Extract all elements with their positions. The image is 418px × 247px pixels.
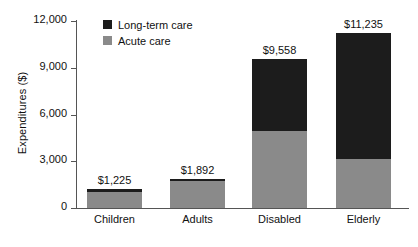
y-axis-title: Expenditures ($) xyxy=(16,33,28,193)
x-axis-label-adults: Adults xyxy=(153,213,243,225)
y-axis-tick: 12,000 xyxy=(0,21,76,22)
y-axis-tick-label: 0 xyxy=(61,200,67,212)
bar-segment-long-term-care xyxy=(252,59,307,131)
bar-segment-long-term-care xyxy=(336,33,391,159)
y-axis-tick-mark xyxy=(71,115,76,116)
y-axis-tick-mark xyxy=(71,208,76,209)
y-axis-tick: 6,000 xyxy=(0,115,76,116)
legend-item-acute-care: Acute care xyxy=(103,33,193,48)
legend-item-long-term-care: Long-term care xyxy=(103,17,193,32)
bar-adults xyxy=(170,179,225,208)
y-axis-tick-label: 12,000 xyxy=(33,13,67,25)
y-axis-tick-mark xyxy=(71,68,76,69)
bar-segment-acute-care xyxy=(252,131,307,208)
chart-legend: Long-term care Acute care xyxy=(103,17,193,49)
y-axis-tick: 0 xyxy=(0,208,76,209)
y-axis-tick-mark xyxy=(71,21,76,22)
y-axis-tick-label: 6,000 xyxy=(39,107,67,119)
bar-children xyxy=(87,189,142,208)
y-axis-tick: 9,000 xyxy=(0,68,76,69)
legend-swatch-acute-care-icon xyxy=(103,36,112,45)
y-axis-tick-mark xyxy=(71,161,76,162)
bar-total-label: $9,558 xyxy=(240,44,320,56)
bar-total-label: $1,225 xyxy=(75,174,155,186)
bar-elderly xyxy=(336,33,391,208)
y-axis-tick-label: 3,000 xyxy=(39,153,67,165)
y-axis-tick-label: 9,000 xyxy=(39,60,67,72)
bar-segment-acute-care xyxy=(336,159,391,208)
bar-segment-acute-care xyxy=(170,181,225,208)
bar-total-label: $11,235 xyxy=(324,18,404,30)
legend-swatch-long-term-care-icon xyxy=(103,20,112,29)
x-axis-label-elderly: Elderly xyxy=(319,213,409,225)
legend-label-acute-care: Acute care xyxy=(118,35,171,47)
x-axis-label-children: Children xyxy=(70,213,160,225)
x-axis-label-disabled: Disabled xyxy=(235,213,325,225)
stacked-bar-chart: Expenditures ($) 03,0006,0009,00012,000 … xyxy=(0,0,418,247)
legend-label-long-term-care: Long-term care xyxy=(118,19,193,31)
x-axis-line xyxy=(76,208,409,209)
y-axis-tick: 3,000 xyxy=(0,161,76,162)
bar-disabled xyxy=(252,59,307,208)
bar-segment-acute-care xyxy=(87,192,142,208)
bar-total-label: $1,892 xyxy=(158,164,238,176)
